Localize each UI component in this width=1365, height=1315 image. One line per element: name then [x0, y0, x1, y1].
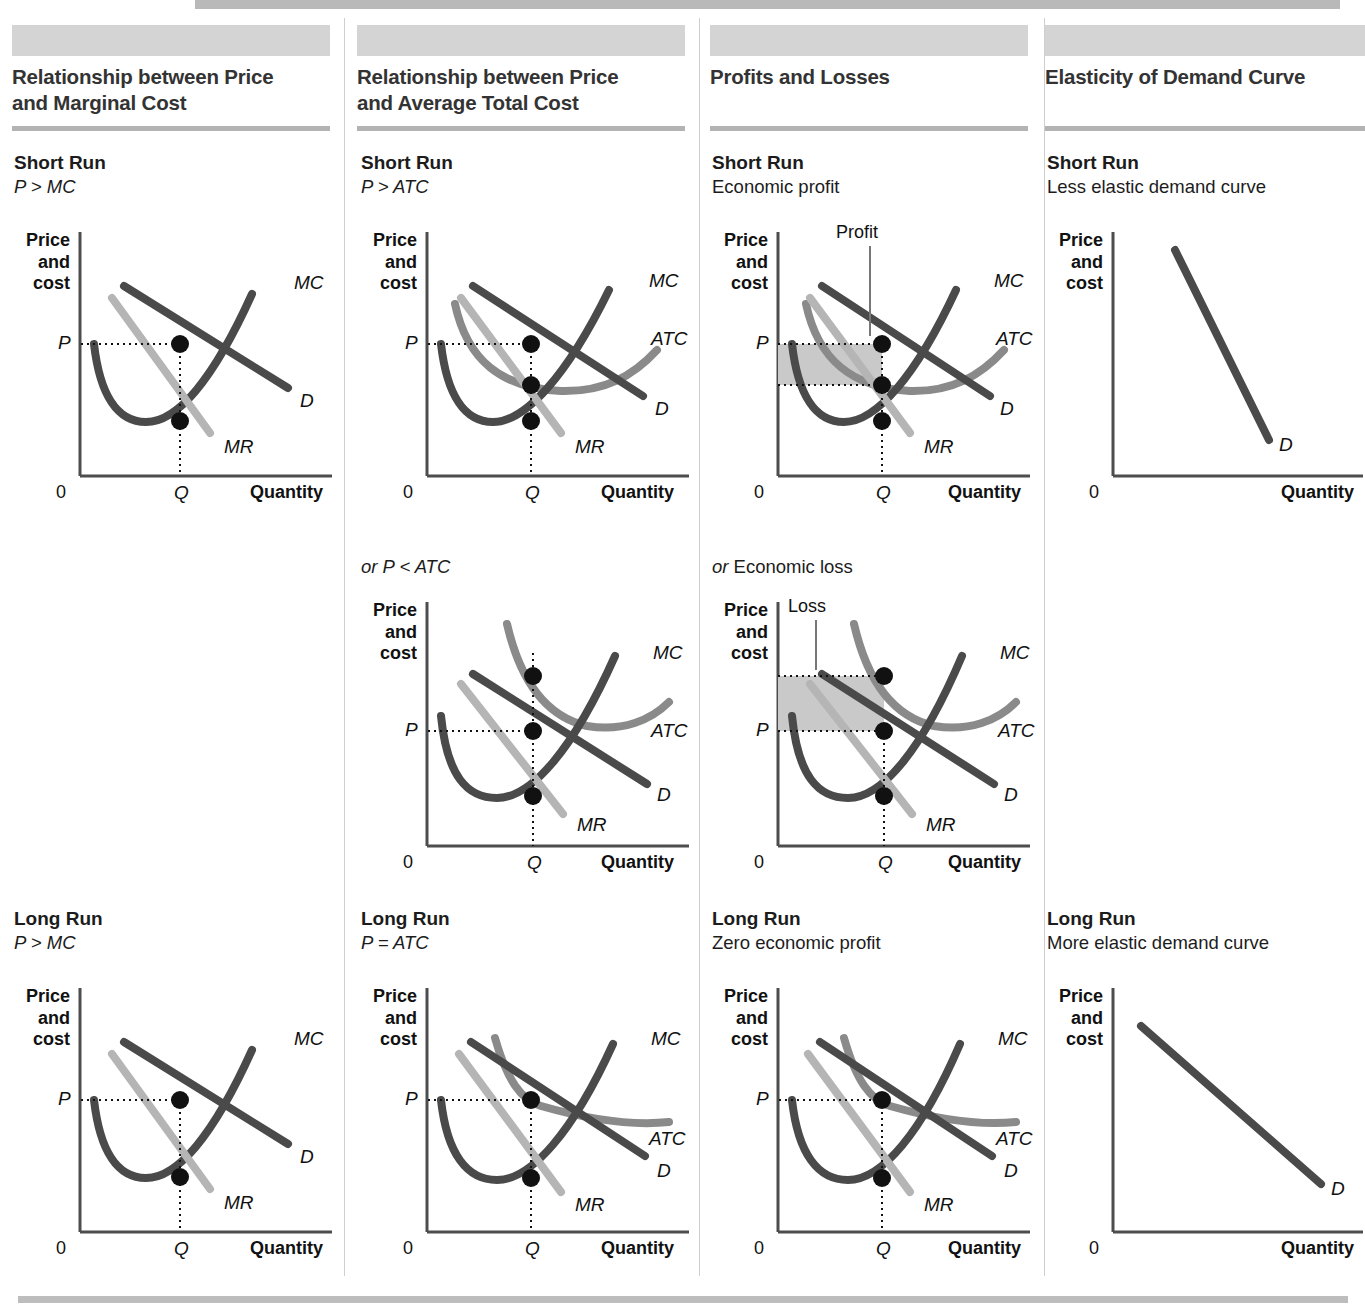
column-title-line1: Relationship between Price	[12, 65, 273, 88]
x-tick-Q: Q	[878, 852, 893, 874]
graph-lr-p-eq-atc: Price and cost P Q	[361, 984, 691, 1242]
y-tick-P: P	[405, 332, 418, 354]
panel-run-label: Short Run	[361, 152, 453, 174]
y-axis-label: Price and cost	[14, 230, 70, 295]
y-tick-P: P	[756, 1088, 769, 1110]
panel-sub-text: P < ATC	[383, 556, 451, 577]
curve-label-MR: MR	[577, 814, 607, 836]
x-axis-label: Quantity	[250, 1238, 323, 1259]
panel-sub-label: Economic profit	[712, 176, 840, 198]
column-rule	[1045, 126, 1365, 131]
graph-sr-less-elastic: Price and cost D 0 Quantity	[1047, 228, 1365, 486]
curve-label-D: D	[657, 1160, 671, 1182]
panel-sub-lead: or	[361, 556, 377, 577]
graph-sr-p-gt-atc: Price and cost P	[361, 228, 691, 486]
panel-sub-label: More elastic demand curve	[1047, 932, 1269, 954]
origin-label: 0	[56, 482, 66, 503]
panel-run-label: Short Run	[712, 152, 804, 174]
column-title: Relationship between Price and Average T…	[357, 64, 687, 116]
curve-label-MC: MC	[653, 642, 683, 664]
y-axis-label: Price and cost	[1047, 986, 1103, 1051]
column-header-band	[1045, 25, 1365, 56]
panel-sub-label: Zero economic profit	[712, 932, 881, 954]
curve-label-MR: MR	[224, 436, 254, 458]
panel-run-label: Short Run	[14, 152, 106, 174]
graph-lr-p-gt-mc: Price and cost P Q 0 Quantity MC D MR	[14, 984, 334, 1242]
panel-run-label: Long Run	[361, 908, 450, 930]
y-axis-label: Price and cost	[1047, 230, 1103, 295]
panel-sub-text: Economic loss	[734, 556, 853, 577]
curve-label-MC: MC	[294, 272, 324, 294]
x-axis-label: Quantity	[948, 852, 1021, 873]
x-tick-Q: Q	[174, 482, 189, 504]
y-tick-P: P	[58, 332, 71, 354]
origin-label: 0	[403, 1238, 413, 1259]
curve-label-MC: MC	[1000, 642, 1030, 664]
column-elasticity-of-demand-curve: Elasticity of Demand Curve Short Run Les…	[1045, 0, 1365, 1295]
y-axis-label: Price and cost	[361, 986, 417, 1051]
column-profits-and-losses: Profits and Losses Short Run Economic pr…	[700, 0, 1045, 1295]
curve-label-ATC: ATC	[998, 720, 1035, 742]
x-axis-label: Quantity	[601, 1238, 674, 1259]
x-tick-Q: Q	[525, 1238, 540, 1260]
x-axis-label: Quantity	[1281, 482, 1354, 503]
panel-run-label: Short Run	[1047, 152, 1139, 174]
curve-label-D: D	[1331, 1178, 1345, 1200]
panel-sub-lead: or	[712, 556, 728, 577]
x-tick-Q: Q	[527, 852, 542, 874]
y-tick-P: P	[58, 1088, 71, 1110]
column-title-line1: Relationship between Price	[357, 65, 618, 88]
panel-run-label: Long Run	[1047, 908, 1136, 930]
curve-label-ATC: ATC	[649, 1128, 686, 1150]
curve-label-D: D	[300, 1146, 314, 1168]
y-tick-P: P	[756, 332, 769, 354]
graph-lr-more-elastic: Price and cost D 0 Quantity	[1047, 984, 1365, 1242]
column-title-line2: and Marginal Cost	[12, 91, 186, 114]
x-axis-label: Quantity	[948, 1238, 1021, 1259]
curve-label-MR: MR	[926, 814, 956, 836]
column-title: Profits and Losses	[710, 64, 1030, 90]
curve-label-D: D	[657, 784, 671, 806]
x-axis-label: Quantity	[948, 482, 1021, 503]
curve-label-MR: MR	[924, 1194, 954, 1216]
profit-callout-label: Profit	[836, 222, 878, 243]
origin-label: 0	[754, 482, 764, 503]
y-axis-label: Price and cost	[712, 600, 768, 665]
panel-sub-label: P > MC	[14, 932, 76, 954]
graph-sr-economic-profit: Price and cost	[712, 228, 1032, 486]
curve-label-MC: MC	[649, 270, 679, 292]
panel-sub-label: or P < ATC	[361, 556, 450, 578]
column-rule	[12, 126, 330, 131]
column-title: Relationship between Price and Marginal …	[12, 64, 332, 116]
graph-sr-p-gt-mc: Price and cost P Q 0 Q	[14, 228, 334, 486]
x-axis-label: Quantity	[601, 482, 674, 503]
y-axis-label: Price and cost	[14, 986, 70, 1051]
column-header-band	[357, 25, 685, 56]
origin-label: 0	[403, 852, 413, 873]
panel-sub-label: P > ATC	[361, 176, 429, 198]
curve-label-MR: MR	[924, 436, 954, 458]
curve-label-MC: MC	[294, 1028, 324, 1050]
column-rule	[710, 126, 1028, 131]
y-tick-P: P	[405, 1088, 418, 1110]
curve-label-MC: MC	[651, 1028, 681, 1050]
column-header-band	[710, 25, 1028, 56]
panel-sub-label: or Economic loss	[712, 556, 853, 578]
loss-callout-label: Loss	[788, 596, 826, 617]
figure-page: Relationship between Price and Marginal …	[0, 0, 1365, 1315]
curve-label-MR: MR	[575, 436, 605, 458]
y-tick-P: P	[405, 719, 418, 741]
curve-label-D: D	[1000, 398, 1014, 420]
column-price-average-total-cost: Relationship between Price and Average T…	[345, 0, 700, 1295]
panel-run-label: Long Run	[14, 908, 103, 930]
column-header-band	[12, 25, 330, 56]
curve-label-ATC: ATC	[996, 328, 1033, 350]
origin-label: 0	[403, 482, 413, 503]
panel-sub-label: P = ATC	[361, 932, 429, 954]
origin-label: 0	[56, 1238, 66, 1259]
y-axis-label: Price and cost	[712, 230, 768, 295]
graph-lr-zero-economic-profit: Price and cost P Q 0 Quantity MC ATC	[712, 984, 1032, 1242]
y-axis-label: Price and cost	[361, 600, 417, 665]
curve-label-ATC: ATC	[651, 720, 688, 742]
curve-label-MR: MR	[575, 1194, 605, 1216]
